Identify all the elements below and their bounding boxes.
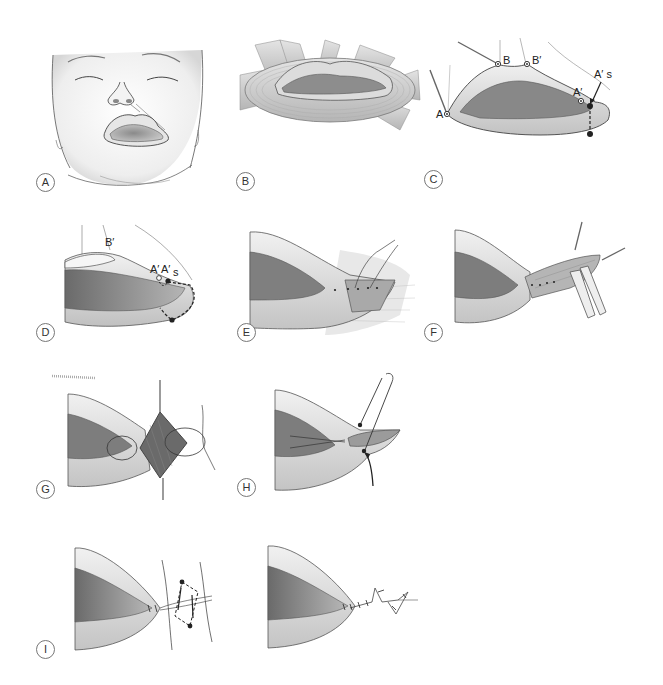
z-plasty-design-illustration [0, 530, 220, 685]
final-closure-illustration [220, 530, 420, 685]
marker-b: B [503, 55, 510, 66]
marker-b-prime: B′ [532, 55, 541, 66]
panel-f: F [420, 200, 663, 370]
incision-design-illustration [0, 200, 220, 370]
subcutaneous-closure-illustration [220, 370, 420, 530]
panel-label-e: E [237, 323, 256, 342]
panel-label-d: D [36, 323, 55, 342]
marker-a: A [436, 109, 443, 120]
panel-h: H [220, 370, 420, 530]
panel-label-a: A [36, 173, 55, 192]
panel-a: A [0, 0, 220, 200]
panel-b: B [220, 0, 430, 200]
panel-i: I [0, 530, 220, 685]
panel-final-closure [220, 530, 420, 685]
marker-a-prime: A′ [573, 87, 582, 98]
panel-label-i: I [36, 640, 55, 659]
marker-a-prime-s: A′ s [594, 69, 612, 80]
panel-d: B′ A′ A′ s D [0, 200, 220, 370]
marker-b-prime: B′ [105, 237, 114, 248]
panel-c: A B B′ A′ A′ s C [420, 20, 663, 200]
mucosal-closure-illustration [220, 200, 420, 370]
face-illustration [0, 0, 220, 200]
marker-a-prime-2: A′ [161, 264, 170, 275]
panel-g: G [0, 370, 220, 530]
muscle-dissection-illustration [420, 200, 663, 370]
muscle-overlap-suture-illustration [0, 370, 220, 530]
panel-label-b: B [236, 172, 255, 191]
panel-label-h: H [237, 478, 256, 497]
marker-a-prime-1: A′ [150, 264, 159, 275]
lip-marking-illustration [420, 20, 663, 200]
marker-s: s [173, 267, 179, 278]
panel-label-c: C [424, 170, 443, 189]
orbicularis-muscle-illustration [220, 0, 430, 200]
panel-e: E [220, 200, 420, 370]
panel-label-f: F [424, 323, 443, 342]
panel-label-g: G [36, 480, 55, 499]
